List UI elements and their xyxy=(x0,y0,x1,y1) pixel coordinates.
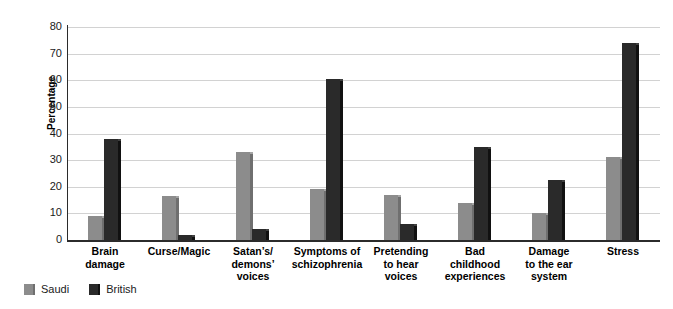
bar-chart: Percentage 01020304050607080 Braindamage… xyxy=(0,0,673,309)
bar-face xyxy=(310,189,324,240)
bar-face xyxy=(458,203,472,240)
x-axis-category-labels: BraindamageCurse/MagicSatan’s/demons’voi… xyxy=(68,245,660,290)
bar-side-shade xyxy=(562,180,565,240)
bar-side-shade xyxy=(118,139,121,240)
bar-face xyxy=(606,157,620,240)
y-tick-label-60: 60 xyxy=(36,73,62,85)
bar-face xyxy=(622,43,636,240)
y-tick-label-0: 0 xyxy=(36,233,62,245)
bar-face xyxy=(474,147,488,240)
y-tick-label-10: 10 xyxy=(36,206,62,218)
bar-face xyxy=(532,213,546,240)
bar-saudi-7 xyxy=(606,157,623,240)
category-label-line: to the ear xyxy=(504,258,594,271)
bar-british-4 xyxy=(400,224,417,240)
gridline-80 xyxy=(68,27,660,28)
gridline-10 xyxy=(68,213,660,214)
legend: SaudiBritish xyxy=(24,283,137,295)
bar-saudi-4 xyxy=(384,195,401,240)
bar-side-shade xyxy=(176,196,179,240)
bar-group xyxy=(86,27,124,240)
bar-saudi-2 xyxy=(236,152,253,240)
bar-top-highlight xyxy=(398,195,401,197)
bar-top-highlight xyxy=(488,147,491,149)
gridline-60 xyxy=(68,80,660,81)
bar-top-highlight xyxy=(250,152,253,154)
bar-saudi-5 xyxy=(458,203,475,240)
bar-face xyxy=(88,216,102,240)
bar-british-3 xyxy=(326,79,343,240)
category-label-line: Stress xyxy=(578,245,668,258)
bar-top-highlight xyxy=(636,43,639,45)
bar-group xyxy=(308,27,346,240)
bar-top-highlight xyxy=(340,79,343,81)
bar-face xyxy=(548,180,562,240)
bar-side-shade xyxy=(250,152,253,240)
bar-british-2 xyxy=(252,229,269,240)
y-tick-label-70: 70 xyxy=(36,47,62,59)
bar-group xyxy=(530,27,568,240)
bar-side-shade xyxy=(414,224,417,240)
category-label-line: damage xyxy=(60,258,150,271)
plot-area xyxy=(68,27,660,240)
bar-british-6 xyxy=(548,180,565,240)
y-tick-label-80: 80 xyxy=(36,20,62,32)
bar-top-highlight xyxy=(414,224,417,226)
bar-group xyxy=(604,27,642,240)
gridline-20 xyxy=(68,187,660,188)
bar-top-highlight xyxy=(176,196,179,198)
y-axis-tick-labels: 01020304050607080 xyxy=(34,27,62,240)
gridline-70 xyxy=(68,54,660,55)
bar-saudi-3 xyxy=(310,189,327,240)
bar-face xyxy=(236,152,250,240)
bar-side-shade xyxy=(636,43,639,240)
y-tick-label-50: 50 xyxy=(36,100,62,112)
british-swatch xyxy=(89,283,100,295)
bar-top-highlight xyxy=(118,139,121,141)
legend-label: British xyxy=(106,283,137,295)
category-label-line: system xyxy=(504,270,594,283)
bar-face xyxy=(252,229,266,240)
bar-top-highlight xyxy=(266,229,269,231)
category-label-7: Stress xyxy=(578,245,668,258)
legend-item-british[interactable]: British xyxy=(89,283,137,295)
legend-label: Saudi xyxy=(41,283,69,295)
bar-saudi-6 xyxy=(532,213,549,240)
bar-british-5 xyxy=(474,147,491,240)
gridline-40 xyxy=(68,134,660,135)
bar-group xyxy=(382,27,420,240)
bar-side-shade xyxy=(488,147,491,240)
bar-saudi-1 xyxy=(162,196,179,240)
bar-face xyxy=(326,79,340,240)
saudi-swatch xyxy=(24,283,35,295)
bar-british-7 xyxy=(622,43,639,240)
bar-face xyxy=(162,196,176,240)
y-tick-label-40: 40 xyxy=(36,127,62,139)
bar-saudi-0 xyxy=(88,216,105,240)
y-tick-label-30: 30 xyxy=(36,153,62,165)
bar-side-shade xyxy=(340,79,343,240)
bar-top-highlight xyxy=(562,180,565,182)
bar-group xyxy=(160,27,198,240)
legend-item-saudi[interactable]: Saudi xyxy=(24,283,69,295)
bar-british-0 xyxy=(104,139,121,240)
x-axis-line xyxy=(67,240,660,242)
bar-face xyxy=(104,139,118,240)
bar-top-highlight xyxy=(192,235,195,237)
bar-face xyxy=(400,224,414,240)
bar-face xyxy=(384,195,398,240)
y-tick-label-20: 20 xyxy=(36,180,62,192)
bar-group xyxy=(456,27,494,240)
gridline-30 xyxy=(68,160,660,161)
gridline-50 xyxy=(68,107,660,108)
bar-group xyxy=(234,27,272,240)
category-label-line: voices xyxy=(208,270,298,283)
